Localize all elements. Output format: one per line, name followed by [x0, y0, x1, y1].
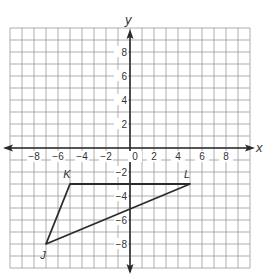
y-tick-label: −4	[116, 191, 128, 202]
y-axis-label: y	[124, 12, 133, 27]
x-tick-label: −2	[100, 151, 112, 162]
x-axis-label: x	[255, 140, 263, 155]
x-tick-label: 0	[132, 151, 138, 162]
y-tick-label: −8	[116, 239, 128, 250]
y-tick-label: −6	[116, 215, 128, 226]
x-tick-label: 2	[151, 151, 157, 162]
vertex-label-j: J	[39, 249, 46, 261]
x-tick-label: 4	[175, 151, 181, 162]
x-tick-label: −6	[52, 151, 64, 162]
x-tick-label: −8	[28, 151, 40, 162]
x-tick-label: −4	[76, 151, 88, 162]
y-tick-label: 6	[121, 71, 127, 82]
y-tick-label: 8	[121, 47, 127, 58]
coordinate-plane: −8−6−4−2024688642−2−4−6−8 KLJ x y	[0, 0, 268, 278]
vertex-label-k: K	[63, 168, 71, 180]
y-tick-label: 2	[121, 119, 127, 130]
x-tick-label: 6	[199, 151, 205, 162]
x-tick-label: 8	[223, 151, 229, 162]
y-tick-label: 4	[121, 95, 127, 106]
y-tick-label: −2	[116, 167, 128, 178]
vertex-label-l: L	[184, 168, 190, 180]
